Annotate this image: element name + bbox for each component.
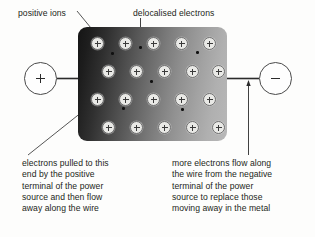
negative-terminal xyxy=(259,62,292,95)
caption-right-line: source to replace those xyxy=(172,192,312,203)
delocalised-electron xyxy=(196,51,199,54)
caption-right-line: the wire from the negative xyxy=(172,169,312,180)
positive-ion xyxy=(212,65,225,78)
positive-ion xyxy=(186,65,199,78)
figure-canvas: positive ions delocalised electrons elec… xyxy=(0,0,315,237)
delocalised-electron xyxy=(111,52,114,55)
caption-right-line: terminal of the power xyxy=(172,181,312,192)
positive-ion xyxy=(186,121,199,134)
positive-ion xyxy=(158,65,171,78)
positive-ion xyxy=(102,65,115,78)
caption-left-line: end by the positive xyxy=(22,169,157,180)
positive-ion xyxy=(175,37,188,50)
caption-right-line: moving away in the metal xyxy=(172,203,312,214)
positive-ion xyxy=(203,37,216,50)
delocalised-electron xyxy=(139,46,142,49)
caption-right-line: more electrons flow along xyxy=(172,158,312,169)
caption-left-line: away along the wire xyxy=(22,203,157,214)
metal-block xyxy=(78,27,227,141)
minus-icon xyxy=(260,63,291,94)
positive-ion xyxy=(175,93,188,106)
label-positive-ions: positive ions xyxy=(18,8,66,19)
positive-ion xyxy=(119,37,132,50)
positive-ion xyxy=(147,37,160,50)
positive-ion xyxy=(102,121,115,134)
positive-ion xyxy=(158,121,171,134)
plus-icon xyxy=(25,63,56,94)
caption-right: more electrons flow along the wire from … xyxy=(172,158,312,214)
arrowhead-right-caption xyxy=(246,80,250,86)
caption-left-line: electrons pulled to this xyxy=(22,158,157,169)
positive-ion xyxy=(91,37,104,50)
caption-left-line: terminal of the power xyxy=(22,181,157,192)
positive-ion xyxy=(91,93,104,106)
delocalised-electron xyxy=(122,107,125,110)
positive-ion xyxy=(130,65,143,78)
positive-ion xyxy=(119,93,132,106)
positive-ion xyxy=(147,93,160,106)
caption-left: electrons pulled to this end by the posi… xyxy=(22,158,157,214)
delocalised-electron xyxy=(181,108,184,111)
leader-positive-ions xyxy=(77,11,91,28)
positive-ion xyxy=(130,121,143,134)
label-delocalised-electrons: delocalised electrons xyxy=(133,8,214,19)
caption-left-line: source and then flow xyxy=(22,192,157,203)
positive-terminal xyxy=(24,62,57,95)
positive-ion xyxy=(212,121,225,134)
delocalised-electron xyxy=(150,80,153,83)
positive-ion xyxy=(203,93,216,106)
